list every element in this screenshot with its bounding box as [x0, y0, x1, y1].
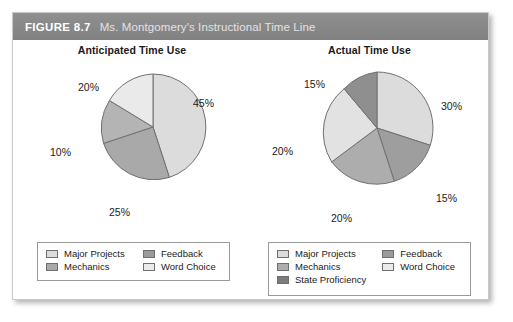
figure-body: Anticipated Time Use 45% 25% 10% 20% — [13, 40, 488, 299]
pie-label-20-percent: 20% — [78, 81, 99, 93]
pie-label-45-percent: 45% — [193, 97, 214, 109]
legend-item-mechanics: Mechanics — [277, 261, 372, 272]
legend-label-major-projects: Major Projects — [295, 248, 356, 259]
legend-swatch-feedback — [382, 250, 394, 258]
pie-label-30-percent: 30% — [441, 100, 462, 112]
pie-actual — [319, 70, 435, 186]
legend-grid-anticipated: Major Projects Feedback Mechanics Word C… — [46, 248, 220, 272]
legend-item-state-proficiency: State Proficiency — [277, 274, 372, 285]
legend-swatch-word-choice — [143, 263, 155, 271]
legend-swatch-word-choice — [382, 263, 394, 271]
pie-label-20-percent-left: 20% — [272, 145, 293, 157]
legend-item-word-choice: Word Choice — [143, 261, 220, 272]
pie-label-15-percent-upper: 15% — [304, 78, 325, 90]
pie-label-25-percent: 25% — [109, 206, 130, 218]
figure-header-bar: FIGURE 8.7 Ms. Montgomery's Instructiona… — [13, 13, 488, 40]
legend-label-word-choice: Word Choice — [400, 261, 455, 272]
legend-swatch-major-projects — [46, 250, 58, 258]
figure-header-inner: FIGURE 8.7 Ms. Montgomery's Instructiona… — [25, 13, 315, 40]
legend-swatch-feedback — [143, 250, 155, 258]
pie-anticipated — [98, 72, 208, 182]
legend-actual: Major Projects Feedback Mechanics Word C… — [268, 242, 471, 296]
pie-label-10-percent: 10% — [50, 146, 71, 158]
legend-swatch-mechanics — [277, 263, 289, 271]
figure-caption: Ms. Montgomery's Instructional Time Line — [100, 21, 316, 33]
legend-label-state-proficiency: State Proficiency — [295, 274, 366, 285]
legend-label-mechanics: Mechanics — [64, 261, 109, 272]
legend-item-mechanics: Mechanics — [46, 261, 129, 272]
legend-item-feedback: Feedback — [143, 248, 220, 259]
legend-anticipated: Major Projects Feedback Mechanics Word C… — [37, 242, 230, 281]
chart-title-actual: Actual Time Use — [251, 44, 488, 56]
legend-swatch-mechanics — [46, 263, 58, 271]
chart-title-anticipated: Anticipated Time Use — [13, 44, 251, 56]
legend-swatch-state-proficiency — [277, 276, 289, 284]
figure-number: FIGURE 8.7 — [25, 21, 91, 33]
legend-item-word-choice: Word Choice — [382, 261, 461, 272]
figure-panel: FIGURE 8.7 Ms. Montgomery's Instructiona… — [12, 12, 489, 300]
legend-swatch-major-projects — [277, 250, 289, 258]
pie-svg-actual — [319, 70, 435, 186]
pie-label-15-percent-lower: 15% — [436, 192, 457, 204]
legend-label-feedback: Feedback — [400, 248, 442, 259]
legend-label-word-choice: Word Choice — [161, 261, 216, 272]
pie-label-20-percent-bottom: 20% — [331, 212, 352, 224]
legend-item-major-projects: Major Projects — [46, 248, 129, 259]
legend-label-mechanics: Mechanics — [295, 261, 340, 272]
legend-label-major-projects: Major Projects — [64, 248, 125, 259]
legend-label-feedback: Feedback — [161, 248, 203, 259]
legend-item-major-projects: Major Projects — [277, 248, 372, 259]
legend-item-feedback: Feedback — [382, 248, 461, 259]
pie-svg-anticipated — [98, 72, 208, 182]
legend-grid-actual: Major Projects Feedback Mechanics Word C… — [277, 248, 461, 285]
